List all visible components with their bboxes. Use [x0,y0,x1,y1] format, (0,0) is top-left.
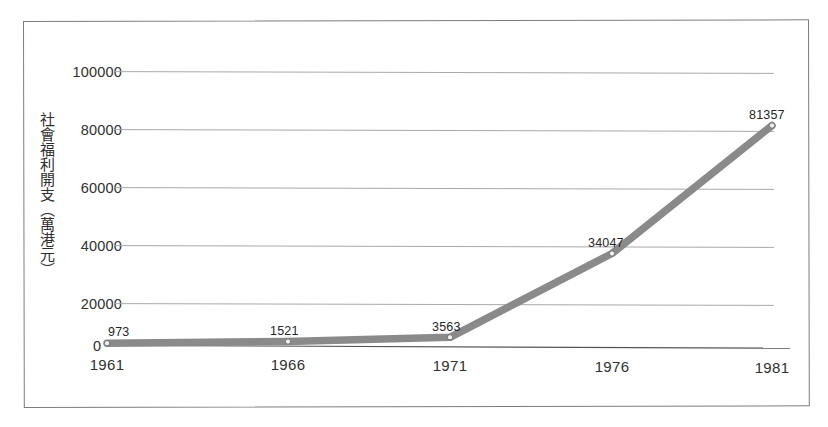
series-line-social-welfare-expenditure [107,126,772,344]
x-tick-label-1981: 1981 [730,359,814,376]
x-tick-label-1971: 1971 [408,357,492,374]
marker-1981 [769,123,774,128]
x-tick-label-1966: 1966 [246,356,330,373]
x-tick-label-1961: 1961 [65,356,149,373]
marker-1971 [447,335,452,340]
marker-1961 [104,341,109,346]
gridline-40000 [114,246,774,248]
gridline-80000 [114,130,774,132]
data-label-1981: 81357 [749,108,785,122]
data-label-1971: 3563 [432,320,461,334]
gridline-100000 [114,72,774,74]
gridlines [114,72,774,306]
gridline-60000 [114,188,774,190]
chart-figure: 社會福利開支（萬港元） 100000 80000 60000 40000 200… [0,0,828,427]
x-tick-label-1976: 1976 [570,358,654,375]
series-markers [104,123,774,346]
data-label-1966: 1521 [270,324,299,338]
data-label-1976: 34047 [588,236,624,250]
marker-1976 [609,251,614,256]
gridline-20000 [114,304,774,306]
data-label-1961: 973 [108,325,129,339]
marker-1966 [285,339,290,344]
